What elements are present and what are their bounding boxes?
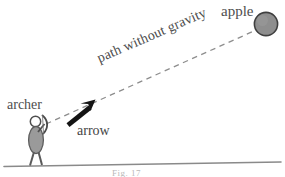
physics-figure-archer-apple: apple archer arrow path without gravity … xyxy=(0,0,285,177)
archer-head xyxy=(30,116,40,126)
path-without-gravity-dashed-line xyxy=(46,31,254,124)
ground-line xyxy=(4,162,281,167)
apple-icon xyxy=(254,12,277,35)
label-archer: archer xyxy=(7,98,42,112)
archer-leg-right xyxy=(39,152,43,165)
archer-leg-left xyxy=(30,152,34,166)
bow-string xyxy=(43,116,44,134)
label-apple: apple xyxy=(221,4,253,19)
label-arrow: arrow xyxy=(77,124,110,138)
archer-torso xyxy=(29,127,44,154)
diagram-canvas xyxy=(0,0,285,177)
archer-figure xyxy=(29,116,48,166)
figure-caption: Fig. 17 xyxy=(112,169,141,177)
